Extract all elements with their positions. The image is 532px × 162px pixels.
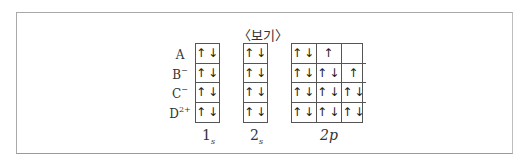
orbital-grid-1s: ↑↓ ↑↓ ↑↓ ↑↓	[195, 43, 220, 123]
orbital-cell: ↑	[342, 64, 366, 84]
orbital-cell: ↑↓	[292, 64, 317, 84]
orbital-cell: ↑↓	[292, 83, 317, 103]
orbital-cell: ↑↓	[196, 83, 220, 103]
example-title: 〈보기〉	[238, 25, 288, 44]
row-label-c: C−	[168, 85, 192, 101]
label-2s: 2s	[250, 127, 263, 146]
orbital-cell	[342, 44, 366, 64]
orbital-cell: ↑↓	[244, 64, 268, 84]
orbital-cell: ↑↓	[244, 83, 268, 103]
row-label-d: D2+	[168, 105, 192, 121]
orbital-cell: ↑↓	[292, 103, 317, 123]
orbital-cell: ↑↓	[244, 103, 268, 123]
orbital-cell: ↑↓	[196, 64, 220, 84]
orbital-grid-2p: ↑↓ ↑ ↑↓ ↑↓ ↑ ↑↓ ↑↓ ↑↓ ↑↓ ↑↓ ↑↓	[291, 43, 363, 123]
orbital-cell: ↑↓	[196, 103, 220, 123]
orbital-grid-2s: ↑↓ ↑↓ ↑↓ ↑↓	[243, 43, 268, 123]
row-label-a: A	[168, 46, 192, 62]
orbital-cell: ↑↓	[292, 44, 317, 64]
label-2p: 2p	[320, 127, 338, 143]
orbital-cell: ↑↓	[317, 64, 342, 84]
label-1s: 1s	[202, 127, 215, 146]
row-label-b: B−	[168, 66, 192, 82]
orbital-cell: ↑↓	[342, 103, 366, 123]
orbital-cell: ↑↓	[317, 83, 342, 103]
orbital-cell: ↑↓	[317, 103, 342, 123]
orbital-cell: ↑↓	[244, 44, 268, 64]
orbital-cell: ↑↓	[196, 44, 220, 64]
orbital-cell: ↑	[317, 44, 342, 64]
orbital-cell: ↑↓	[342, 83, 366, 103]
